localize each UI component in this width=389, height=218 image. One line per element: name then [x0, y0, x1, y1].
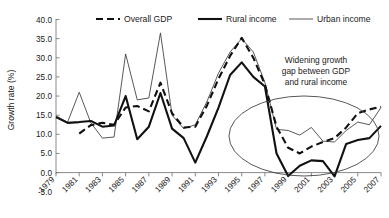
y-axis-group: 40.035.030.025.020.015.010.05.00.0-5.0 [36, 16, 59, 197]
legend-item-rural-income[interactable]: Rural income [198, 14, 277, 24]
x-tick-label: 2007 [362, 175, 382, 195]
chart-legend: Overall GDPRural incomeUrban income [96, 14, 371, 24]
y-tick-label: 5.0 [41, 149, 53, 158]
x-tick-label: 2001 [293, 175, 313, 195]
legend-label: Rural income [226, 14, 277, 24]
x-tick-label: 1983 [84, 175, 104, 195]
x-tick-label: 1997 [246, 175, 266, 195]
y-tick-label: 25.0 [36, 73, 52, 82]
line-chart: 40.035.030.025.020.015.010.05.00.0-5.0 1… [0, 0, 389, 218]
y-tick-label: 15.0 [36, 111, 52, 120]
x-tick-label: 1989 [153, 175, 173, 195]
x-tick-label: 1985 [107, 175, 127, 195]
legend-item-overall-gdp[interactable]: Overall GDP [96, 14, 172, 24]
y-tick-label: 30.0 [36, 54, 52, 63]
y-tick-labels: 40.035.030.025.020.015.010.05.00.0-5.0 [36, 16, 52, 197]
legend-item-urban-income[interactable]: Urban income [289, 14, 371, 24]
legend-label: Urban income [317, 14, 371, 24]
y-tick-label: 40.0 [36, 16, 52, 25]
x-tick-label: 2005 [339, 175, 359, 195]
y-tick-marks [56, 20, 60, 173]
x-tick-label: 2003 [316, 175, 336, 195]
x-tick-label: 1991 [176, 175, 196, 195]
chart-container: 40.035.030.025.020.015.010.05.00.0-5.0 1… [0, 0, 389, 218]
y-tick-label: 20.0 [36, 92, 52, 101]
x-tick-label: 1999 [269, 175, 289, 195]
x-tick-labels: 1979198119831985198719891991199319951997… [37, 175, 382, 195]
y-tick-label: 35.0 [36, 35, 52, 44]
legend-label: Overall GDP [124, 14, 172, 24]
x-tick-label: 1993 [200, 175, 220, 195]
x-tick-label: 1987 [130, 175, 150, 195]
x-axis-group: 1979198119831985198719891991199319951997… [37, 173, 382, 195]
annotation-line: Widening growth [285, 55, 348, 65]
x-tick-label: 1995 [223, 175, 243, 195]
annotation-text-group: Widening growthgap between GDPand rural … [282, 55, 351, 87]
y-axis-title: Growth rate (%) [6, 70, 16, 131]
annotation-line: gap between GDP [282, 66, 351, 76]
y-tick-label: 10.0 [36, 130, 52, 139]
x-tick-label: 1981 [60, 175, 80, 195]
annotation-line: and rural income [285, 77, 348, 87]
